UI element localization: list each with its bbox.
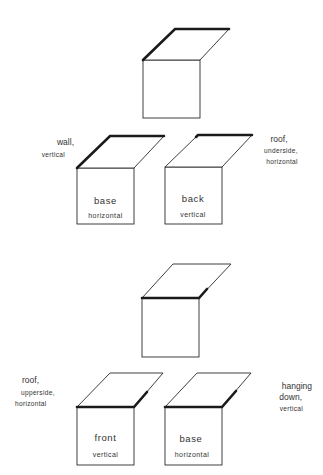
flap-label: down, (279, 392, 302, 402)
flap-label: roof, (22, 375, 39, 385)
flap-sublabel: underside, (264, 147, 298, 154)
square-sublabel: horizontal (175, 451, 209, 458)
folding-diagram-canvas: base horizontal wall, vertical back vert… (0, 0, 323, 475)
square-label: base (94, 195, 117, 206)
parallelogram-flap (77, 373, 163, 407)
flap-sublabel: horizontal (15, 400, 47, 407)
figure-1-ambiguous (143, 29, 229, 118)
square-face (143, 60, 200, 118)
square-label: base (179, 433, 202, 444)
square-sublabel: horizontal (88, 212, 122, 219)
flap-sublabel: vertical (280, 405, 304, 412)
parallelogram-flap (165, 135, 252, 167)
square-sublabel: vertical (180, 211, 205, 218)
parallelogram-flap (142, 264, 231, 298)
square-label: front (94, 432, 116, 443)
flap-label: wall, (56, 137, 74, 147)
figure-1a-base-wall: base horizontal wall, vertical (42, 136, 164, 224)
flap-sublabel: horizontal (266, 158, 298, 165)
square-label: back (182, 193, 204, 204)
flap-label: roof, (270, 134, 287, 144)
square-sublabel: vertical (93, 451, 118, 458)
flap-sublabel: vertical (42, 151, 66, 158)
parallelogram-flap (143, 29, 229, 60)
figure-1b-back-roof: back vertical roof, underside, horizonta… (165, 134, 298, 224)
figure-2a-front-roof: front vertical roof, upperside, horizont… (15, 373, 163, 465)
figure-2-ambiguous (142, 264, 231, 357)
square-face (142, 298, 199, 357)
parallelogram-flap (165, 373, 251, 407)
flap-sublabel: upperside, (21, 389, 55, 397)
flap-label: hanging (282, 381, 313, 391)
parallelogram-flap (77, 136, 164, 168)
figure-2b-base-hanging: base horizontal hanging down, vertical (165, 373, 312, 465)
